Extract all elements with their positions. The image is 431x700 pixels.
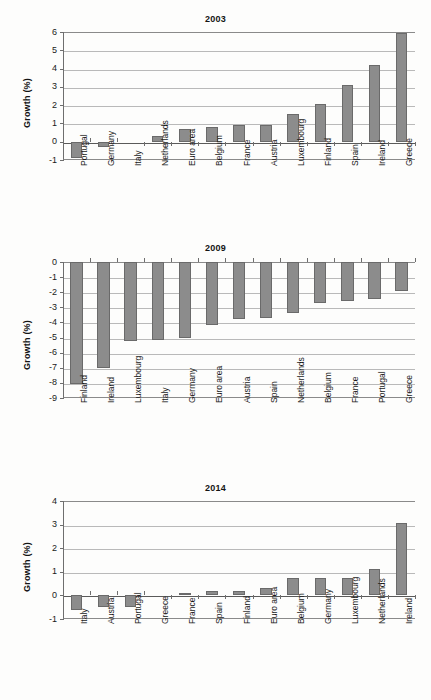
x-tick-mark: [388, 595, 389, 599]
x-tick-label: France: [188, 598, 197, 624]
x-tick-mark: [90, 138, 91, 142]
zero-axis-line: [64, 143, 415, 144]
x-tick-mark: [144, 258, 145, 262]
gridline: [64, 549, 415, 550]
y-tick-label: -1: [29, 273, 57, 282]
x-tick-label: Ireland: [405, 598, 414, 624]
bar-ireland: [97, 262, 109, 368]
y-tick-mark: [60, 292, 64, 293]
x-tick-label: Euro area: [215, 366, 224, 403]
y-tick-label: -9: [29, 394, 57, 403]
y-tick-mark: [60, 50, 64, 51]
x-tick-label: Spain: [215, 602, 224, 624]
x-tick-label: Greece: [405, 375, 414, 403]
x-tick-mark: [361, 258, 362, 262]
chart-title-2009: 2009: [0, 243, 431, 253]
y-tick-label: 2: [29, 101, 57, 110]
bar-portugal: [368, 262, 380, 299]
gridline: [64, 88, 415, 89]
x-tick-label: Italy: [134, 150, 143, 166]
x-tick-mark: [90, 591, 91, 595]
x-tick-mark: [225, 595, 226, 599]
bar-spain: [342, 85, 353, 142]
x-tick-label: Belgium: [324, 372, 333, 403]
y-tick-mark: [60, 322, 64, 323]
x-tick-label: Belgium: [215, 135, 224, 166]
x-tick-mark: [90, 258, 91, 262]
x-tick-label: France: [243, 140, 252, 166]
chart-title-2003: 2003: [0, 14, 431, 24]
x-tick-mark: [415, 258, 416, 262]
x-tick-label: Belgium: [297, 593, 306, 624]
bar-luxembourg: [124, 262, 136, 341]
x-tick-label: Germany: [107, 131, 116, 166]
x-tick-mark: [334, 595, 335, 599]
x-tick-mark: [307, 142, 308, 146]
x-tick-label: Portugal: [80, 134, 89, 166]
x-tick-label: Finland: [80, 375, 89, 403]
bar-spain: [260, 262, 272, 318]
x-tick-label: Germany: [324, 589, 333, 624]
x-tick-label: Greece: [405, 138, 414, 166]
chart-title-2014: 2014: [0, 483, 431, 493]
y-tick-label: -7: [29, 363, 57, 372]
bar-finland: [233, 591, 244, 596]
y-tick-mark: [60, 383, 64, 384]
bar-belgium: [314, 262, 326, 303]
x-tick-mark: [171, 595, 172, 599]
x-tick-label: Ireland: [378, 140, 387, 166]
y-tick-label: 6: [29, 28, 57, 37]
x-tick-label: Portugal: [134, 592, 143, 624]
y-tick-mark: [60, 277, 64, 278]
x-tick-mark: [361, 595, 362, 599]
x-tick-mark: [388, 142, 389, 146]
y-tick-mark: [60, 32, 64, 33]
x-tick-label: Italy: [161, 387, 170, 403]
y-tick-label: -5: [29, 333, 57, 342]
x-tick-mark: [253, 595, 254, 599]
x-tick-label: Greece: [161, 596, 170, 624]
x-tick-label: Finland: [243, 596, 252, 624]
zero-axis-line: [64, 596, 415, 597]
x-tick-mark: [117, 138, 118, 142]
gridline: [64, 354, 415, 355]
y-tick-label: 4: [29, 497, 57, 506]
y-tick-mark: [60, 501, 64, 502]
bar-germany: [179, 262, 191, 338]
gridline: [64, 526, 415, 527]
x-tick-label: Luxembourg: [297, 119, 306, 166]
figure-container: 2003Growth (%)-10123456PortugalGermanyIt…: [0, 0, 431, 700]
gridline: [64, 369, 415, 370]
x-tick-label: Finland: [324, 138, 333, 166]
x-tick-label: Portugal: [378, 371, 387, 403]
x-tick-label: Ireland: [107, 377, 116, 403]
y-tick-label: 5: [29, 46, 57, 55]
bar-france: [179, 593, 190, 595]
x-tick-mark: [361, 142, 362, 146]
x-tick-label: Austria: [243, 377, 252, 403]
x-tick-mark: [334, 142, 335, 146]
y-tick-mark: [60, 338, 64, 339]
x-tick-label: Austria: [270, 140, 279, 166]
y-tick-mark: [60, 525, 64, 526]
bar-ireland: [396, 523, 407, 595]
x-tick-label: Netherlands: [378, 578, 387, 624]
gridline: [64, 384, 415, 385]
x-tick-label: Euro area: [270, 587, 279, 624]
x-tick-mark: [307, 258, 308, 262]
gridline: [64, 339, 415, 340]
bar-netherlands: [287, 262, 299, 313]
y-tick-label: -3: [29, 303, 57, 312]
y-tick-label: 4: [29, 64, 57, 73]
x-tick-label: Euro area: [188, 129, 197, 166]
x-tick-mark: [280, 595, 281, 599]
x-tick-label: Netherlands: [161, 120, 170, 166]
x-tick-mark: [415, 595, 416, 599]
y-tick-mark: [60, 368, 64, 369]
y-tick-mark: [60, 123, 64, 124]
y-tick-mark: [60, 619, 64, 620]
y-tick-mark: [60, 398, 64, 399]
y-tick-label: -1: [29, 156, 57, 165]
y-tick-mark: [60, 160, 64, 161]
x-tick-mark: [198, 595, 199, 599]
